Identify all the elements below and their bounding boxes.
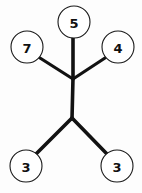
- node-7[interactable]: 7: [11, 31, 43, 63]
- node-7-circle[interactable]: [11, 31, 43, 63]
- node-4[interactable]: 4: [102, 31, 134, 63]
- node-5[interactable]: 5: [58, 6, 90, 38]
- node-5-circle[interactable]: [58, 6, 90, 38]
- node-3-right-circle[interactable]: [101, 150, 133, 182]
- node-3-right[interactable]: 3: [101, 150, 133, 182]
- node-4-circle[interactable]: [102, 31, 134, 63]
- tree-diagram-svg: 5 7 4 3 3: [0, 0, 142, 193]
- node-3-left-circle[interactable]: [10, 150, 42, 182]
- edge-upper-junction-to-lower-junction: [72, 78, 73, 119]
- tree-diagram-canvas: 5 7 4 3 3: [0, 0, 142, 193]
- node-3-left[interactable]: 3: [10, 150, 42, 182]
